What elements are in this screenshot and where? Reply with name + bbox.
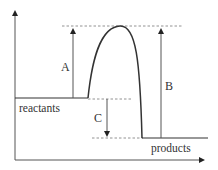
reactants-label: reactants [19, 102, 60, 114]
products-label: products [151, 142, 191, 155]
label-c: C [94, 111, 102, 125]
label-b: B [165, 79, 173, 93]
diagram-svg: A B C reactants products [0, 0, 218, 170]
energy-diagram: A B C reactants products [0, 0, 218, 170]
label-a: A [61, 60, 70, 74]
